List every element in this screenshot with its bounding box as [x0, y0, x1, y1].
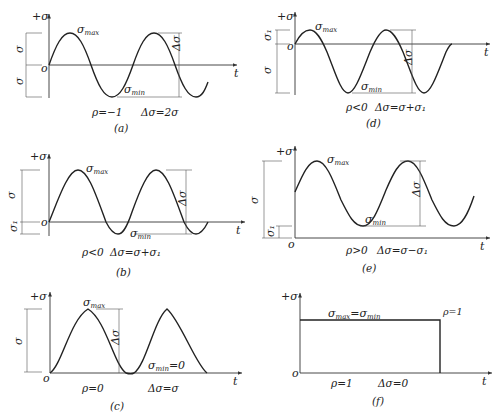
offset-dim: σ₁ — [261, 29, 274, 41]
stress-ratio: ρ>0 — [345, 244, 368, 256]
amplitude-dim: σ — [5, 191, 18, 199]
max-label: σmax — [315, 20, 337, 34]
origin-label: o — [288, 238, 295, 251]
caption: (e) — [362, 262, 376, 274]
amplitude-dim: σ — [12, 337, 25, 345]
max-label: σmax — [77, 23, 99, 37]
panel-a: +σ o t σ σ Δσ σmax σmin ρ=−1 Δσ=2σ (a) — [13, 10, 239, 134]
origin-label: o — [43, 372, 50, 385]
range-label: Δσ — [170, 35, 183, 52]
amplitude-dim: σ — [248, 196, 261, 204]
panel-d: +σ o t σ₁ σ Δσ σmax σmin ρ<0 Δσ=σ+σ₁ (d) — [261, 10, 490, 129]
panel-e: +σ o t σ σ₁ Δσ σmax σmin ρ>0 Δσ=σ−σ₁ (e) — [248, 145, 490, 274]
max-label: σmax — [86, 162, 108, 176]
y-axis-label: +σ — [30, 290, 47, 303]
panel-f: +σ o t σmax=σmin ρ=1 ρ=1 Δσ=0 (f) — [281, 290, 492, 407]
range-label: Δσ — [109, 329, 122, 346]
y-axis-label: +σ — [281, 290, 298, 303]
stress-curve — [295, 161, 474, 226]
panel-b: +σ o t σ σ₁ Δσ σmax σmin ρ<0 Δσ=σ+σ₁ (b) — [5, 150, 245, 278]
stress-range: Δσ=2σ — [140, 106, 179, 118]
origin-label: o — [41, 216, 48, 229]
min-label: σmin — [130, 227, 151, 241]
stress-range: Δσ=σ+σ₁ — [109, 246, 161, 258]
stress-ratio: ρ<0 — [345, 101, 368, 113]
stress-curve — [295, 30, 452, 93]
x-axis-label: t — [233, 375, 238, 388]
min-label: σmin — [124, 83, 145, 97]
origin-label: o — [287, 40, 294, 53]
min-label: σmin=0 — [148, 359, 185, 373]
offset-dim: σ₁ — [264, 225, 277, 237]
range-label: Δσ — [402, 49, 415, 66]
amplitude-dim-upper: σ — [13, 45, 26, 53]
stress-ratio: ρ=−1 — [91, 106, 122, 118]
stress-cycle-figure: +σ o t σ σ Δσ σmax σmin ρ=−1 Δσ=2σ (a) +… — [0, 0, 503, 420]
range-label: Δσ — [176, 190, 189, 207]
amplitude-dim: σ — [261, 66, 274, 74]
stress-range: Δσ=σ — [147, 382, 180, 394]
max-label: σmax — [83, 296, 105, 310]
x-axis-label: t — [484, 46, 489, 59]
origin-label: o — [41, 62, 48, 75]
y-axis-label: +σ — [276, 145, 293, 158]
y-axis-label: +σ — [277, 10, 294, 23]
stress-ratio: ρ=1 — [330, 377, 353, 389]
x-axis-label: t — [236, 224, 241, 237]
x-axis-label: t — [482, 375, 487, 388]
y-axis-label: +σ — [30, 150, 47, 163]
range-label: Δσ — [410, 181, 423, 198]
stress-ratio: ρ<0 — [81, 246, 104, 258]
panel-c: +σ o t σ Δσ σmax σmin=0 ρ=0 Δσ=σ (c) — [12, 290, 242, 412]
caption: (c) — [110, 400, 124, 412]
x-axis-label: t — [480, 240, 485, 253]
caption: (d) — [366, 117, 381, 129]
origin-label: o — [292, 367, 299, 380]
caption: (f) — [372, 395, 384, 407]
x-axis-label: t — [234, 67, 239, 80]
min-label: σmin — [361, 80, 382, 94]
amplitude-dim-lower: σ — [13, 77, 26, 85]
stress-ratio: ρ=0 — [81, 382, 104, 394]
stress-range: Δσ=0 — [377, 377, 409, 389]
max-equals-min-label: σmax=σmin — [328, 307, 381, 321]
rho-note: ρ=1 — [442, 306, 463, 317]
y-axis-label: +σ — [32, 10, 49, 23]
max-label: σmax — [327, 153, 349, 167]
constant-stress-line — [300, 320, 440, 373]
caption: (a) — [114, 122, 128, 134]
stress-range: Δσ=σ−σ₁ — [376, 244, 428, 256]
caption: (b) — [116, 266, 131, 278]
stress-range: Δσ=σ+σ₁ — [374, 101, 426, 113]
offset-dim: σ₁ — [7, 220, 20, 232]
